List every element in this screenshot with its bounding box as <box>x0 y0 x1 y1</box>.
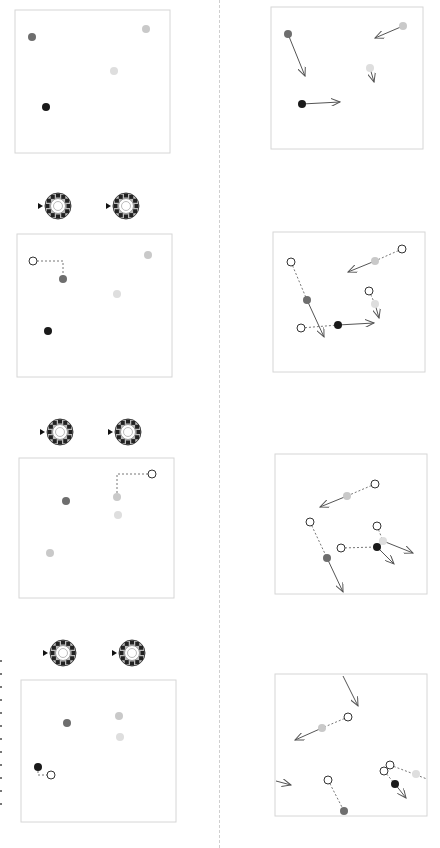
dial-tick <box>130 641 134 645</box>
dial-tick <box>56 194 60 198</box>
previous-position-ring <box>386 761 394 769</box>
dial-tick <box>135 642 139 646</box>
dial-tick <box>139 656 143 660</box>
agent-dot <box>63 719 71 727</box>
right-panel <box>275 454 427 594</box>
left-panel <box>21 640 176 822</box>
left-panel <box>17 193 172 377</box>
previous-position-ring <box>324 776 332 784</box>
agent-dot <box>113 493 121 501</box>
left-column-panels <box>15 10 176 822</box>
dial-tick <box>49 435 53 439</box>
dial-tick <box>67 425 71 429</box>
dial-tick <box>56 660 60 664</box>
dial-tick <box>70 656 74 660</box>
dial-tick <box>47 199 51 203</box>
agent-dot <box>298 100 306 108</box>
agent-dot <box>366 64 374 72</box>
dial-tick <box>61 213 65 217</box>
agent-dot <box>144 251 152 259</box>
dial-tick <box>51 213 55 217</box>
dial-tick <box>139 646 143 650</box>
agent-dot <box>116 733 124 741</box>
agent-dot <box>284 30 292 38</box>
dial-pointer-icon <box>106 203 111 209</box>
previous-position-ring <box>297 324 305 332</box>
previous-position-ring <box>287 258 295 266</box>
dial-tick <box>135 660 139 664</box>
dial-tick <box>135 425 139 429</box>
dial-tick <box>117 435 121 439</box>
dial-icon <box>43 640 76 666</box>
dial-tick <box>66 642 70 646</box>
dial-tick <box>124 215 128 219</box>
dial-tick <box>121 421 125 425</box>
dial-tick <box>70 646 74 650</box>
previous-position-ring <box>373 522 381 530</box>
previous-position-ring <box>398 245 406 253</box>
agent-dot <box>391 780 399 788</box>
dial-tick <box>125 660 129 664</box>
dial-tick <box>53 421 57 425</box>
dial-icon <box>40 419 73 445</box>
right-panel <box>275 674 427 816</box>
right-panel <box>271 7 423 149</box>
dial-tick <box>53 439 57 443</box>
dial-tick <box>69 430 73 434</box>
agent-dot <box>373 543 381 551</box>
dial-tick <box>66 660 70 664</box>
agent-dot <box>318 724 326 732</box>
dial-tick <box>125 642 129 646</box>
previous-position-ring <box>148 470 156 478</box>
dial-center <box>56 646 71 661</box>
dial-tick <box>119 195 123 199</box>
dial-tick <box>141 651 145 655</box>
dial-tick <box>121 656 125 660</box>
right-panel <box>273 232 425 372</box>
dial-tick <box>121 646 125 650</box>
dial-center <box>119 199 134 214</box>
dial-tick <box>63 421 67 425</box>
dial-tick <box>67 204 71 208</box>
agent-dot <box>412 770 420 778</box>
dial-tick <box>49 425 53 429</box>
dial-tick <box>52 646 56 650</box>
dial-center <box>51 199 66 214</box>
dial-tick <box>120 651 124 655</box>
agent-dot <box>142 25 150 33</box>
agent-dot <box>59 275 67 283</box>
dial-tick <box>65 209 69 213</box>
dial-center <box>53 425 68 440</box>
dial-tick <box>46 204 50 208</box>
dial-pointer-icon <box>108 429 113 435</box>
dial-tick <box>58 441 62 445</box>
dial-tick <box>126 420 130 424</box>
dial-tick <box>131 421 135 425</box>
dial-tick <box>47 209 51 213</box>
previous-position-ring <box>337 544 345 552</box>
agent-dot <box>44 327 52 335</box>
dial-tick <box>119 213 123 217</box>
agent-dot <box>46 549 54 557</box>
agent-dot <box>399 22 407 30</box>
previous-position-ring <box>344 713 352 721</box>
panel-frame <box>275 454 427 594</box>
panel-frame <box>21 680 176 822</box>
dial-tick <box>129 195 133 199</box>
previous-position-ring <box>371 480 379 488</box>
agent-dot <box>371 257 379 265</box>
dial-icon <box>38 193 71 219</box>
agent-dot <box>343 492 351 500</box>
previous-position-ring <box>365 287 373 295</box>
dial-pointer-icon <box>40 429 45 435</box>
previous-position-ring <box>306 518 314 526</box>
dial-tick <box>133 199 137 203</box>
agent-dot <box>115 712 123 720</box>
agent-dot <box>113 290 121 298</box>
agent-dot <box>28 33 36 41</box>
dial-tick <box>115 199 119 203</box>
dial-tick <box>61 641 65 645</box>
panel-frame <box>19 458 174 598</box>
dial-tick <box>61 195 65 199</box>
panel-frame <box>275 674 427 816</box>
